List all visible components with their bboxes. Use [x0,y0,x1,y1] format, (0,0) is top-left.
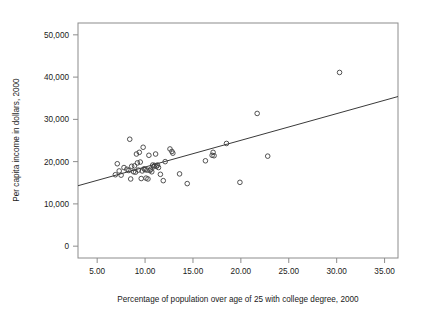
x-tick-label: 20.00 [231,267,252,276]
x-tick-label: 30.00 [326,267,347,276]
y-tick-label: 0 [64,242,69,251]
x-tick-label: 35.00 [374,267,395,276]
x-tick-label: 15.00 [183,267,204,276]
y-axis-label: Per capita income in dollars, 2000 [12,78,21,202]
y-tick-label: 30,000 [44,115,69,124]
scatter-plot-figure: 5.0010.0015.0020.0025.0030.0035.00 010,0… [0,0,422,315]
y-tick-label: 50,000 [44,31,69,40]
plot-canvas: 5.0010.0015.0020.0025.0030.0035.00 010,0… [0,0,422,315]
x-tick-label: 25.00 [279,267,300,276]
x-axis-label: Percentage of population over age of 25 … [117,295,359,304]
x-tick-label: 10.00 [135,267,156,276]
y-tick-label: 10,000 [44,200,69,209]
y-tick-label: 20,000 [44,158,69,167]
x-tick-label: 5.00 [89,267,105,276]
y-tick-label: 40,000 [44,73,69,82]
